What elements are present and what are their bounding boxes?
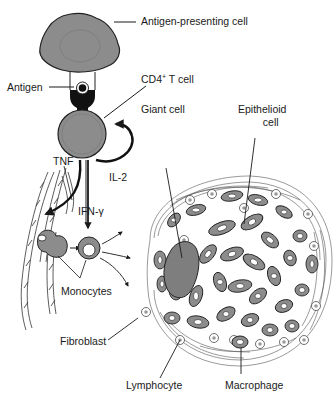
label-cd4-main: CD4 [141,73,162,85]
lymphocyte-leader [160,340,180,378]
monocyte [78,237,100,259]
label-cd4-rest: T cell [166,73,194,85]
granuloma-diagram: Antigen-presenting cell Antigen CD4+ T c… [0,0,336,396]
monocyte-extravasating [37,230,67,257]
label-epithelioid-cell: Epithelioidcell [238,104,286,127]
label-monocytes: Monocytes [61,286,112,297]
cd4-leader-line [104,86,146,118]
label-cd4-sup: + [162,73,166,80]
cd4-t-cell [58,110,106,158]
label-macrophage: Macrophage [225,380,283,391]
label-apc: Antigen-presenting cell [141,16,248,27]
label-antigen: Antigen [7,82,43,93]
label-ifn-gamma: IFN-γ [78,206,104,217]
mhc-receptor-complex [70,72,95,112]
granuloma [142,176,333,366]
label-fibroblast: Fibroblast [60,336,106,347]
monocytes-leader-1 [58,256,80,278]
label-tnf: TNF [53,156,73,167]
migration-arrows [100,232,130,286]
label-cd4-t-cell: CD4+ T cell [141,74,194,85]
diagram-artwork [0,0,336,396]
giant-cell-leader [166,168,182,258]
antigen-presenting-cell [40,13,120,72]
macrophage [232,336,248,348]
fibroblast-leader [108,318,138,340]
label-giant-cell: Giant cell [141,104,185,115]
label-il2: IL-2 [109,172,127,183]
label-epithelioid-line1: Epithelioid [238,104,286,115]
epithelioid-leader [244,138,255,224]
tnf-arrow [46,160,80,214]
label-epithelioid-line2: cell [238,117,286,128]
label-lymphocyte: Lymphocyte [126,380,182,391]
monocytes-leader-2 [80,260,86,278]
